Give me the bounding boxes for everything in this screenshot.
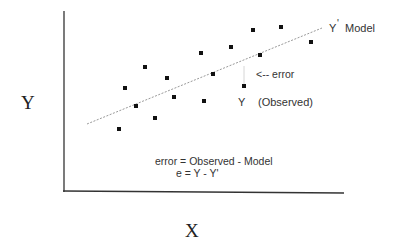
data-point xyxy=(279,25,283,29)
observed-y-label: Y xyxy=(238,96,246,108)
data-point xyxy=(143,65,147,69)
error-arrow-label: <-- error xyxy=(256,68,295,80)
formula-line-1: error = Observed - Model xyxy=(155,155,273,167)
data-point xyxy=(153,116,157,120)
data-point xyxy=(172,95,176,99)
data-point xyxy=(165,76,169,80)
data-point xyxy=(242,84,246,88)
formula-line-2: e = Y - Y' xyxy=(176,167,219,179)
observed-word-label: (Observed) xyxy=(258,96,313,108)
data-point xyxy=(258,53,262,57)
model-label-word: Model xyxy=(345,22,375,34)
model-label-prime: ' xyxy=(337,18,339,29)
data-point xyxy=(309,40,313,44)
data-point xyxy=(251,28,255,32)
x-axis xyxy=(63,191,344,193)
x-axis-label: X xyxy=(185,220,199,241)
y-axis-label: Y xyxy=(21,92,35,113)
data-point xyxy=(202,99,206,103)
regression-error-diagram: Y X Y ' Model <-- error Y (Observed) err… xyxy=(0,0,400,241)
data-point xyxy=(211,72,215,76)
data-point xyxy=(229,45,233,49)
data-point xyxy=(123,86,127,90)
model-label-y: Y xyxy=(329,22,337,34)
data-point xyxy=(199,51,203,55)
data-point xyxy=(117,127,121,131)
data-point xyxy=(134,104,138,108)
